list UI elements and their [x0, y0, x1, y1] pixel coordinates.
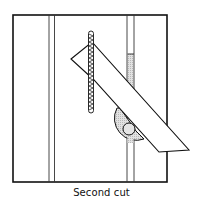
second-cut-diagram — [0, 0, 203, 206]
figure-caption: Second cut — [0, 187, 203, 198]
saw-blade — [89, 31, 94, 113]
pivot-icon — [123, 123, 135, 135]
